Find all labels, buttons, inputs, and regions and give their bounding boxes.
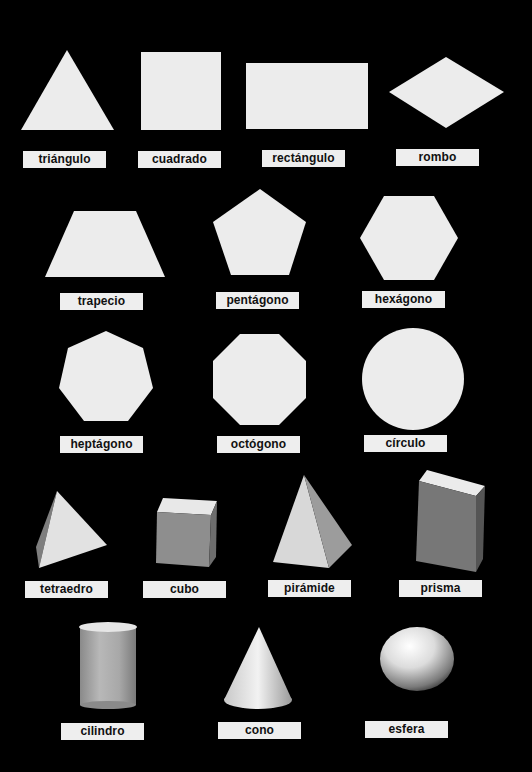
label-pyramid: pirámide xyxy=(268,580,351,597)
prism-solid xyxy=(415,469,487,573)
label-circle: círculo xyxy=(364,435,447,452)
octagon-shape xyxy=(212,333,307,427)
label-cylinder: cilindro xyxy=(61,723,144,740)
label-tetrahedron: tetraedro xyxy=(25,581,108,598)
square-shape xyxy=(141,52,221,132)
tetrahedron-solid xyxy=(33,490,108,570)
rhombus-shape xyxy=(388,56,506,130)
label-pentagon: pentágono xyxy=(216,292,299,309)
label-rhombus: rombo xyxy=(396,149,479,166)
label-cube: cubo xyxy=(143,581,226,598)
circle-shape xyxy=(361,327,465,431)
label-triangle: triángulo xyxy=(23,151,106,168)
label-sphere: esfera xyxy=(365,721,448,738)
cone-solid xyxy=(223,626,293,712)
label-hexagon: hexágono xyxy=(362,291,445,308)
triangle-shape xyxy=(20,50,115,132)
label-prism: prisma xyxy=(399,580,482,597)
label-square: cuadrado xyxy=(138,151,221,168)
label-trapezoid: trapecio xyxy=(60,293,143,310)
sphere-solid xyxy=(379,626,455,692)
cube-solid xyxy=(155,497,219,569)
pyramid-solid xyxy=(272,474,354,570)
cylinder-solid xyxy=(78,621,138,711)
hexagon-shape xyxy=(359,195,459,281)
label-octagon: octógono xyxy=(217,436,300,453)
trapezoid-shape xyxy=(44,210,166,278)
rectangle-shape xyxy=(246,63,370,131)
heptagon-shape xyxy=(58,330,154,424)
pentagon-shape xyxy=(212,188,308,278)
label-heptagon: heptágono xyxy=(60,436,143,453)
label-rectangle: rectángulo xyxy=(262,150,345,167)
label-cone: cono xyxy=(218,722,301,739)
